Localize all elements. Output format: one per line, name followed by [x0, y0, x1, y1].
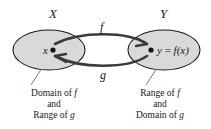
- caption-right-line3: Domain of g: [112, 110, 208, 121]
- leader-line-right: [146, 70, 156, 86]
- equals-sign: =: [162, 44, 174, 56]
- leader-line-left: [31, 70, 41, 86]
- caption-right-line2: and: [112, 99, 208, 110]
- element-y-dot: [148, 47, 153, 52]
- mapping-g-label: g: [100, 69, 106, 81]
- element-y-equation: y = f(x): [157, 45, 189, 56]
- set-x-label: X: [49, 7, 57, 20]
- caption-left: Domain of f and Range of g: [8, 88, 100, 122]
- caption-left-line2: and: [8, 99, 100, 110]
- caption-left-line3: Range of g: [8, 110, 100, 121]
- function-argument-x: (x): [177, 44, 189, 56]
- function-inverse-diagram: X Y f g x y = f(x) Domain of f and Range…: [0, 0, 211, 129]
- caption-left-line1: Domain of f: [8, 88, 100, 99]
- set-y-label: Y: [160, 7, 167, 20]
- caption-right: Range of f and Domain of g: [112, 88, 208, 122]
- element-x-label: x: [43, 45, 48, 56]
- element-x-dot: [50, 47, 55, 52]
- mapping-f-label: f: [100, 21, 103, 33]
- caption-right-line1: Range of f: [112, 88, 208, 99]
